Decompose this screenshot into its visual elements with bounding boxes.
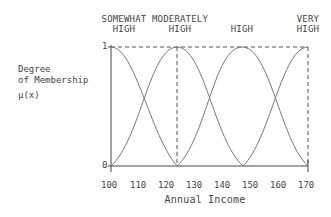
label-moderately-high: MODERATELY HIGH [150, 14, 210, 34]
y-axis-label: Degree of Membership μ(x) [18, 64, 88, 101]
label-somewhat-high: SOMEWHAT HIGH [96, 14, 152, 34]
label-high: HIGH [222, 24, 262, 34]
x-tick-130: 130 [186, 180, 202, 190]
y-axis-label-line1: Degree [18, 64, 88, 75]
label-moderately-high-line2: HIGH [150, 24, 210, 34]
x-axis-title: Annual Income [160, 195, 250, 205]
label-very-high-line2: HIGH [290, 24, 326, 34]
x-tick-100: 100 [101, 180, 117, 190]
x-tick-150: 150 [242, 180, 258, 190]
label-somewhat-high-line1: SOMEWHAT [96, 14, 152, 24]
y-tick-label-0: 0 [102, 160, 107, 170]
x-tick-120: 120 [158, 180, 174, 190]
label-very-high: VERY HIGH [290, 14, 326, 34]
x-tick-140: 140 [214, 180, 230, 190]
very-high-curve [243, 47, 308, 166]
y-tick-label-1: 1 [102, 41, 107, 51]
x-tick-160: 160 [270, 180, 286, 190]
x-tick-170: 170 [298, 180, 314, 190]
y-axis-label-mu: μ(x) [18, 90, 88, 101]
label-somewhat-high-line2: HIGH [96, 24, 152, 34]
label-moderately-high-line1: MODERATELY [150, 14, 210, 24]
y-axis-label-line2: of Membership [18, 75, 88, 86]
x-tick-110: 110 [130, 180, 146, 190]
label-very-high-line1: VERY [290, 14, 326, 24]
somewhat-high-curve [111, 47, 177, 166]
